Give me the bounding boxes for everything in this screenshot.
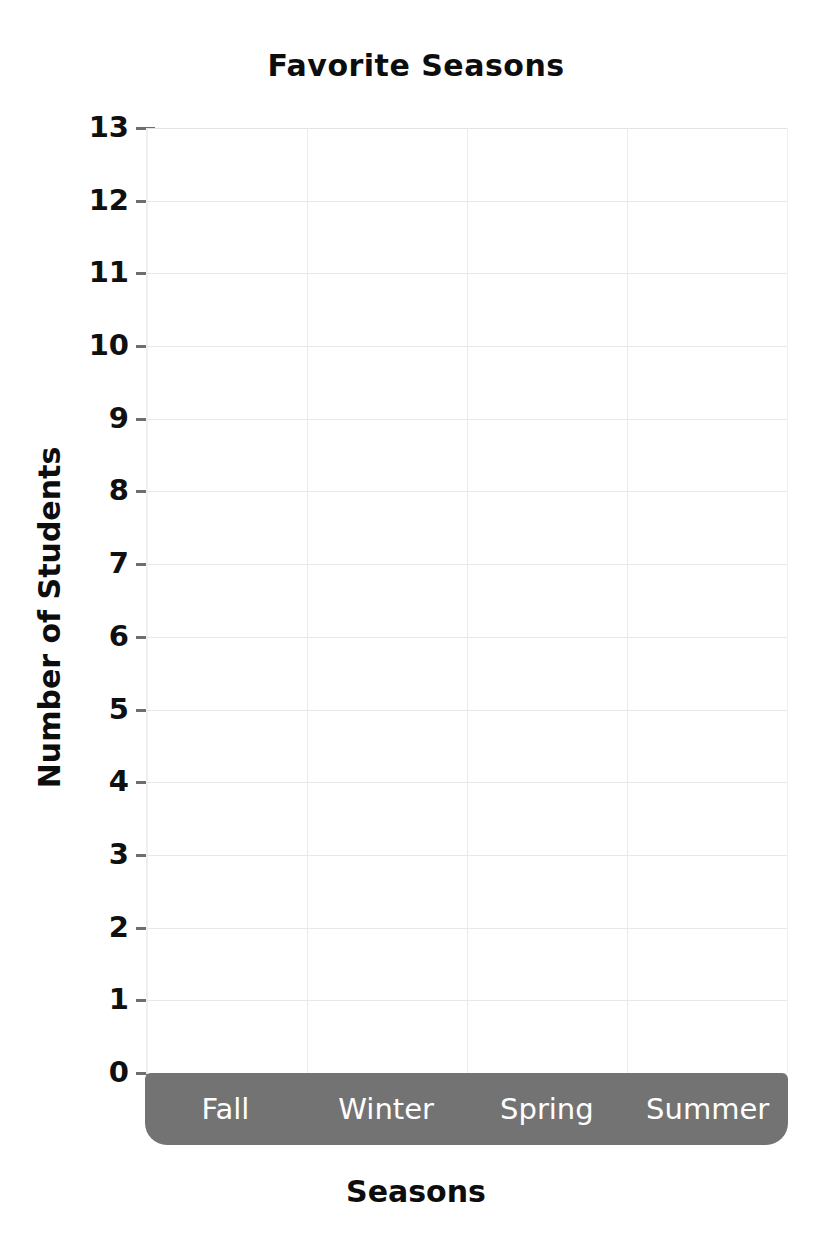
y-axis-tick-label: 6 xyxy=(9,622,129,651)
y-axis-tick-label: 4 xyxy=(9,767,129,796)
y-axis-tick-label: 1 xyxy=(9,985,129,1014)
x-axis-category-label: Spring xyxy=(467,1073,628,1145)
y-axis-tick-label: 5 xyxy=(9,695,129,724)
bars-layer xyxy=(147,128,787,1073)
y-axis-tick-label: 0 xyxy=(9,1058,129,1087)
y-axis-tick-label: 11 xyxy=(9,258,129,287)
y-axis-tick-label: 2 xyxy=(9,913,129,942)
y-axis-tick-label: 9 xyxy=(9,404,129,433)
gridline-vertical xyxy=(787,128,788,1073)
y-axis-tick-label: 8 xyxy=(9,476,129,505)
x-axis-category-label: Fall xyxy=(145,1073,306,1145)
x-axis-category-label: Winter xyxy=(306,1073,467,1145)
bar-chart: Favorite Seasons Number of Students 1312… xyxy=(0,0,832,1254)
x-axis-title: Seasons xyxy=(0,1174,832,1209)
y-axis-tick-label: 3 xyxy=(9,840,129,869)
x-axis-category-band: FallWinterSpringSummer xyxy=(145,1073,788,1145)
y-axis-tick-label: 10 xyxy=(9,331,129,360)
y-axis-tick-label: 13 xyxy=(9,113,129,142)
y-axis-tick-labels: 131211109876543210 xyxy=(0,0,129,1254)
y-axis-tick-label: 7 xyxy=(9,549,129,578)
plot-area xyxy=(147,128,787,1073)
x-axis-category-label: Summer xyxy=(627,1073,788,1145)
y-axis-tick-label: 12 xyxy=(9,186,129,215)
